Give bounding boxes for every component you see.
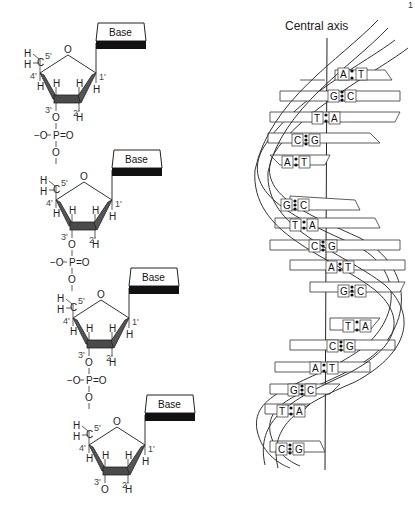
dna-diagram: Base O H H C 5' 4' 1' 3' 2' H H H H H O … [0,0,415,524]
c3-number: 3' [61,232,68,242]
h-atom: H [126,329,133,340]
c5-number: 5' [78,296,85,306]
base-right: A [331,113,338,124]
base-left: C [311,241,318,252]
nucleotide-4: Base O H H C 5' 4' 1' 3' 2' H H H H H O [73,395,195,495]
base-left: T [279,406,285,417]
c3-number: 3' [94,477,101,487]
base-left: A [312,363,319,374]
base-right: G [295,444,303,455]
c4-number: 4' [63,316,70,326]
base-left: C [278,444,285,455]
base-pair-14: G C [288,384,316,396]
base-pair-8: C G [309,240,337,252]
base-right: A [296,406,303,417]
c4-number: 4' [30,71,37,81]
h-atom: H [86,453,93,464]
base-left: G [290,385,298,396]
h-atom: H [53,78,60,89]
base-right: A [362,321,369,332]
base-left: C [329,341,336,352]
base-right: T [358,69,364,80]
base-right: T [345,262,351,273]
base-left: G [283,200,291,211]
h-atom: H [102,450,109,461]
ring-oxygen: O [113,416,121,427]
c1-number: 1' [132,317,139,327]
phosphate-linker-1: O −O P =O O [34,112,74,164]
nucleotide-1: Base O H H C 5' 4' 1' 3' 2' H H H H H [24,23,146,123]
base-label: Base [125,154,148,165]
c3-number: 3' [45,105,52,115]
base-right: T [301,157,307,168]
nucleotide-2: Base O H H C 5' 4' 1' 3' 2' H H H H H [40,150,162,250]
h-atom: H [24,59,31,70]
base-right: C [307,385,314,396]
base-left: G [340,286,348,297]
o-atom: O [85,392,93,403]
h-atom: H [70,326,77,337]
h-atom: H [109,323,116,334]
base-left: A [340,69,347,80]
phosphate-linker-3: O −O P =O O [67,357,107,409]
base-right: G [311,135,319,146]
h-atom: H [24,48,31,59]
base-pair-6: G C [281,199,309,211]
ring-oxygen: O [97,289,105,300]
o-atom: O [68,274,76,285]
h-atom: H [93,84,100,95]
h-atom: H [86,323,93,334]
h-atom: H [57,304,64,315]
base-label: Base [109,27,132,38]
c3-number: 3' [78,350,85,360]
base-left: C [294,135,301,146]
base-label: Base [158,399,181,410]
base-right: C [347,91,354,102]
o-double: =O [76,257,90,268]
base-left: T [292,220,298,231]
h-atom: H [125,484,132,495]
c5-atom: C [86,429,93,440]
o-minus: −O [50,257,64,268]
base-pair-10: G C [338,285,366,297]
h-atom: H [37,81,44,92]
c5-atom: C [53,184,60,195]
c5-number: 5' [94,423,101,433]
h-atom: H [109,357,116,368]
c5-number: 5' [61,178,68,188]
base-pair-4: C G [292,134,320,146]
base-right: A [309,220,316,231]
central-axis-label: Central axis [285,19,348,33]
base-left: A [328,262,335,273]
base-right: G [346,341,354,352]
o-atom: O [68,239,76,250]
base-left: T [345,321,351,332]
o-minus: −O [67,375,81,386]
h-atom: H [76,112,83,123]
o-double: =O [60,130,74,141]
o-atom: O [101,484,109,495]
base-right: G [328,241,336,252]
base-pair-12: C G [327,340,355,352]
ring-oxygen: O [80,171,88,182]
h-atom: H [142,456,149,467]
c4-number: 4' [46,198,53,208]
c5-atom: C [70,302,77,313]
c5-number: 5' [45,51,52,61]
base-left: G [330,91,338,102]
o-atom: O [52,147,60,158]
double-helix: Central axis [255,19,408,470]
h-atom: H [69,205,76,216]
c4-number: 4' [79,443,86,453]
base-left: A [284,157,291,168]
base-left: T [314,113,320,124]
h-atom: H [76,78,83,89]
c5-atom: C [37,57,44,68]
p-atom: P [53,130,60,141]
o-minus: −O [34,130,48,141]
h-atom: H [92,239,99,250]
base-right: T [329,363,335,374]
h-atom: H [40,186,47,197]
o-double: =O [93,375,107,386]
h-atom: H [53,208,60,219]
